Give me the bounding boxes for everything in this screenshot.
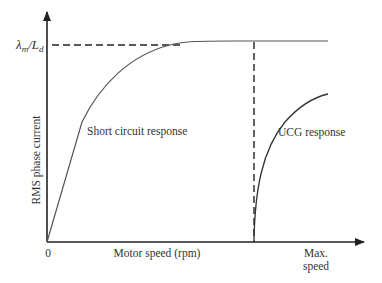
y-axis-label: RMS phase current xyxy=(30,115,43,205)
max-speed-label-line1: Max. xyxy=(304,247,328,259)
short-circuit-curve xyxy=(47,41,328,242)
ucg-curve xyxy=(254,94,328,240)
ucg-response-label: UCG response xyxy=(278,126,345,139)
diagram-canvas: λm/Ld RMS phase current 0 Motor speed (r… xyxy=(0,0,382,283)
x-axis-label: Motor speed (rpm) xyxy=(114,247,201,260)
y-level-label: λm/Ld xyxy=(15,37,44,54)
origin-label: 0 xyxy=(45,247,51,259)
max-speed-label-line2: speed xyxy=(303,260,329,273)
short-circuit-response-label: Short circuit response xyxy=(87,125,187,138)
